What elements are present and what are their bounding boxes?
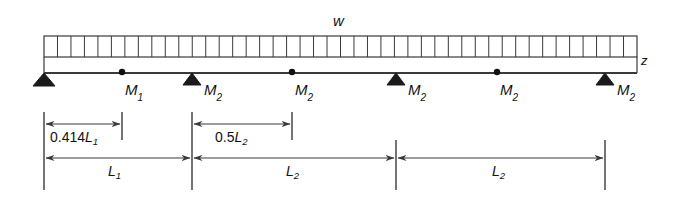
moment-label-2: M2: [204, 82, 222, 101]
moment-subscript: 2: [308, 92, 314, 103]
moment-subscript: 2: [513, 92, 519, 103]
dimension-subscript: 1: [93, 136, 98, 147]
dimension-symbol: L: [492, 163, 500, 179]
moment-subscript: 1: [138, 92, 144, 103]
hinge-point-3: [494, 69, 500, 75]
support-triangle-3[interactable]: [387, 73, 405, 85]
diagram-canvas: [0, 0, 679, 201]
moment-label-4: M2: [408, 82, 426, 101]
support-triangle-4[interactable]: [596, 73, 614, 85]
load-label-w: w: [333, 12, 344, 29]
dimension-subscript: 2: [294, 170, 299, 181]
dimension-subscript: 2: [242, 136, 247, 147]
dimension-coefficient: 0.414: [50, 129, 85, 145]
moment-symbol: M: [125, 81, 138, 98]
beam-diagram: w z M1M2M2M2M2M2 0.414L10.5L2L1L2L2: [0, 0, 679, 201]
moment-symbol: M: [295, 81, 308, 98]
dimension-L2-second-text: L2: [492, 164, 505, 178]
dimension-L2-first-text: L2: [286, 164, 299, 178]
dimension-0414L1-text: 0.414L1: [50, 130, 98, 144]
break-symbol-z: z: [641, 54, 648, 67]
moment-symbol: M: [408, 81, 421, 98]
dimension-subscript: 2: [500, 170, 505, 181]
dimension-L1-text: L1: [108, 164, 121, 178]
hinge-point-1: [119, 69, 125, 75]
dimension-05L2-text: 0.5L2: [215, 130, 248, 144]
moment-label-6: M2: [617, 82, 635, 101]
hinge-point-2: [289, 69, 295, 75]
dimension-coefficient: 0.5: [215, 129, 234, 145]
moment-label-3: M2: [295, 82, 313, 101]
moment-subscript: 2: [630, 92, 636, 103]
moment-symbol: M: [617, 81, 630, 98]
dimension-symbol: L: [85, 129, 93, 145]
dimension-symbol: L: [108, 163, 116, 179]
moment-label-5: M2: [500, 82, 518, 101]
support-triangle-2[interactable]: [183, 73, 201, 85]
moment-symbol: M: [500, 81, 513, 98]
moment-subscript: 2: [421, 92, 427, 103]
moment-label-1: M1: [125, 82, 143, 101]
support-triangle-1[interactable]: [33, 73, 55, 86]
moment-subscript: 2: [217, 92, 223, 103]
dimension-symbol: L: [286, 163, 294, 179]
moment-symbol: M: [204, 81, 217, 98]
dimension-subscript: 1: [116, 170, 121, 181]
